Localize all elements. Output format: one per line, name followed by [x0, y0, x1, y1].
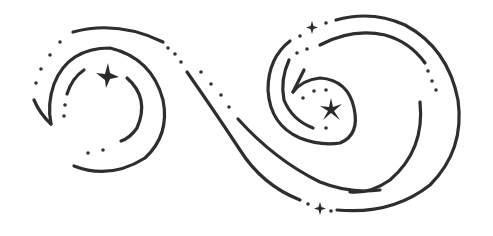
right-second-ring-lower: [350, 102, 421, 192]
right-inner-arc: [283, 60, 313, 128]
right-spiral-star-icon: [320, 98, 342, 120]
left-top-arc: [73, 28, 163, 42]
left-spiral-star-icon: [96, 63, 119, 88]
top-small-star-icon: [306, 21, 318, 34]
right-spiral: [268, 16, 459, 213]
bottom-small-star-icon: [314, 202, 326, 215]
swirl-artwork: [0, 0, 493, 236]
left-spiral: [34, 28, 231, 172]
right-hook: [293, 70, 304, 92]
right-dots: [295, 21, 438, 213]
left-inner-arc-a: [67, 70, 84, 94]
right-second-ring-upper: [320, 33, 425, 63]
swirl-illustration: [0, 0, 493, 236]
connector-inner: [238, 119, 380, 191]
left-inner-arc-b: [121, 78, 142, 141]
left-outer-arc: [50, 48, 165, 171]
